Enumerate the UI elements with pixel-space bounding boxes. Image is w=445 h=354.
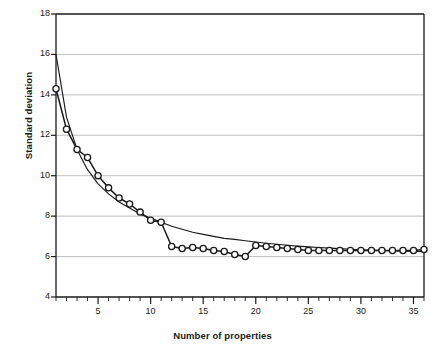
x-tick-label: 10 [139,306,163,316]
x-tick-label: 35 [401,306,425,316]
y-axis-title: Standard deviation [23,46,34,186]
x-tick-label: 5 [86,306,110,316]
x-tick-label: 30 [349,306,373,316]
x-tick-label-layer: 5101520253035 [0,0,445,354]
x-axis-title: Number of properties [0,330,445,341]
chart-container: 4681012141618 5101520253035 Standard dev… [0,0,445,354]
x-tick-label: 15 [191,306,215,316]
x-tick-label: 20 [244,306,268,316]
x-tick-label: 25 [296,306,320,316]
